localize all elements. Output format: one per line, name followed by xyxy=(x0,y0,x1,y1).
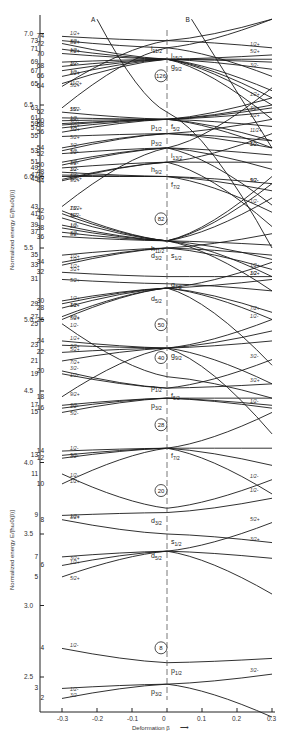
k-pi-label: 9/2- xyxy=(70,213,79,218)
x-tick-label: 0.3 xyxy=(267,715,276,722)
k-pi-label: 1/2- xyxy=(70,61,79,66)
level-number: 10 xyxy=(37,480,45,487)
x-axis-arrow: ⟶ xyxy=(180,725,189,731)
k-pi-label: 5/2- xyxy=(70,411,79,416)
x-tick-label: -0.2 xyxy=(92,715,104,722)
y-axis-title-upper: Normalized energy E/[ħω0(β)] xyxy=(9,190,15,270)
level-number: 74 xyxy=(37,32,45,39)
k-pi-label: 3/2- xyxy=(70,231,79,236)
k-pi-label: 1/2- xyxy=(70,323,79,328)
k-pi-label: 5/2+ xyxy=(70,40,80,45)
x-tick-label: 0 xyxy=(162,715,166,722)
k-pi-label: 3/2+ xyxy=(70,556,80,561)
k-pi-label: 1/2- xyxy=(70,473,79,478)
k-pi-label: 1/2- xyxy=(70,167,79,172)
level-number: 51 xyxy=(31,158,39,165)
level-number: 8 xyxy=(40,516,44,523)
k-pi-label: 1/2+ xyxy=(70,70,80,75)
spherical-orbital-label: h9/2 xyxy=(151,166,162,175)
level-number: 63 xyxy=(31,104,39,111)
level-number: 17 xyxy=(31,401,39,408)
spherical-orbital-label: d5/2 xyxy=(151,552,162,561)
level-letter: B xyxy=(186,16,190,23)
level-number: 32 xyxy=(37,268,45,275)
level-number: 3 xyxy=(34,684,38,691)
k-pi-label: 5/2+ xyxy=(70,83,80,88)
magic-number: 126 xyxy=(156,73,167,79)
k-pi-label: 5/2- xyxy=(250,142,259,147)
x-axis-title: Deformation β xyxy=(132,725,170,731)
k-pi-label: 3/2+ xyxy=(250,537,260,542)
spherical-orbital-label: f7/2 xyxy=(171,452,180,461)
level-number: 31 xyxy=(31,275,39,282)
spherical-orbital-label: f5/2 xyxy=(171,392,180,401)
level-number: 20 xyxy=(37,367,45,374)
level-number: 65 xyxy=(31,80,39,87)
k-pi-label: 1/2+ xyxy=(70,296,80,301)
y-tick-label: 4.5 xyxy=(24,387,33,394)
spherical-orbital-label: i11/2 xyxy=(151,45,162,54)
k-pi-label: 1/2+ xyxy=(70,514,80,519)
level-number: 7 xyxy=(34,553,38,560)
k-pi-label: 7/2+ xyxy=(70,360,80,365)
level-number: 69 xyxy=(31,58,39,65)
k-pi-label: 5/2- xyxy=(250,178,259,183)
spherical-orbital-label: p3/2 xyxy=(151,138,162,147)
magic-number: 40 xyxy=(158,355,165,361)
k-pi-label: 5/2+ xyxy=(70,576,80,581)
spherical-orbital-label: p1/2 xyxy=(151,123,162,132)
k-pi-label: 1/2- xyxy=(70,687,79,692)
magic-number: 82 xyxy=(158,216,165,222)
k-pi-label: 5/2+ xyxy=(250,49,260,54)
level-number: 6 xyxy=(40,561,44,568)
level-number: 43 xyxy=(31,203,39,210)
k-pi-label: 1/2+ xyxy=(250,263,260,268)
y-axis-title-lower: Normalized energy E/[ħω0(β)] xyxy=(9,510,15,590)
k-pi-label: 1/2- xyxy=(70,446,79,451)
k-pi-label: 3/2- xyxy=(250,63,259,68)
level-letter: A xyxy=(91,16,96,23)
x-tick-label: -0.3 xyxy=(57,715,69,722)
level-number: 39 xyxy=(31,221,39,228)
level-number: 27 xyxy=(31,313,39,320)
y-tick-label: 2.5 xyxy=(24,673,33,680)
level-number: 30 xyxy=(37,297,45,304)
level-number: 24 xyxy=(37,337,45,344)
y-tick-label: 5.5 xyxy=(24,244,33,251)
level-number: 4 xyxy=(40,644,44,651)
spherical-orbital-label: s1/2 xyxy=(171,538,182,547)
x-tick-label: -0.1 xyxy=(127,715,139,722)
nilsson-diagram: 2.53.03.54.04.55.05.56.06.57.0-0.3-0.2-0… xyxy=(0,0,297,743)
k-pi-label: 3/2- xyxy=(70,143,79,148)
k-pi-label: 1/2+ xyxy=(70,123,80,128)
spherical-orbital-label: p3/2 xyxy=(151,402,162,411)
k-pi-label: 1/2+ xyxy=(70,254,80,259)
k-pi-label: 5/2+ xyxy=(250,517,260,522)
y-tick-label: 7.0 xyxy=(24,30,33,37)
k-pi-label: 7/2+ xyxy=(250,306,260,311)
k-pi-label: 1/2- xyxy=(250,199,259,204)
level-number: 14 xyxy=(37,447,45,454)
k-pi-label: 1/2+ xyxy=(70,264,80,269)
k-pi-label: 3/2- xyxy=(70,366,79,371)
level-curve xyxy=(62,262,272,316)
k-pi-label: 5/2- xyxy=(70,174,79,179)
k-pi-label: 11/2+ xyxy=(250,128,262,133)
k-pi-label: 1/2+ xyxy=(70,48,80,53)
k-pi-label: 13/2+ xyxy=(70,206,82,211)
spherical-orbital-label: p1/2 xyxy=(171,667,182,676)
k-pi-label: 3/2- xyxy=(250,668,259,673)
k-pi-label: 1/2- xyxy=(250,271,259,276)
k-pi-label: 1/2+ xyxy=(250,113,260,118)
level-number: 2 xyxy=(40,694,44,701)
spherical-orbital-label: d3/2 xyxy=(151,517,162,526)
x-tick-label: 0.2 xyxy=(232,715,241,722)
magic-number: 28 xyxy=(158,422,165,428)
level-number: 35 xyxy=(31,251,39,258)
k-pi-label: 1/2+ xyxy=(250,42,260,47)
level-number: 9 xyxy=(34,511,38,518)
k-pi-label: 3/2- xyxy=(70,161,79,166)
spherical-orbital-label: p3/2 xyxy=(151,688,162,697)
k-pi-label: 9/2+ xyxy=(70,392,80,397)
spherical-orbital-label: p1/2 xyxy=(151,384,162,393)
